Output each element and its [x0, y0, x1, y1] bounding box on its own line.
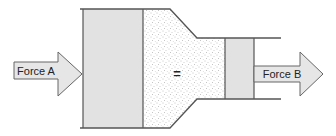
force-b-label: Force B: [263, 68, 302, 80]
piston-large: [83, 9, 143, 128]
force-a-arrow: Force A: [14, 52, 82, 96]
hydraulic-fluid: [143, 9, 225, 128]
force-a-label: Force A: [17, 65, 56, 77]
hydraulic-press-diagram: = Force A Force B: [0, 0, 336, 136]
equals-sign: =: [173, 66, 181, 81]
force-b-arrow: Force B: [254, 52, 323, 96]
piston-small: [225, 38, 254, 99]
